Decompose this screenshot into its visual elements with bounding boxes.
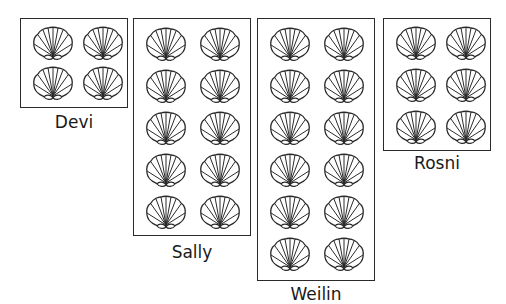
rosni-shell-box <box>383 18 491 151</box>
scallop-shell-icon <box>394 26 438 62</box>
sally-label: Sally <box>133 242 251 262</box>
scallop-shell-icon <box>322 237 366 273</box>
scallop-shell-icon <box>322 153 366 189</box>
scallop-shell-icon <box>444 26 488 62</box>
scallop-shell-icon <box>322 111 366 147</box>
sally-shell-box <box>133 18 251 236</box>
scallop-shell-icon <box>198 27 242 63</box>
scallop-shell-icon <box>81 26 125 62</box>
scallop-shell-icon <box>444 110 488 146</box>
scallop-shell-icon <box>198 195 242 231</box>
scallop-shell-icon <box>268 237 312 273</box>
weilin-label: Weilin <box>257 284 375 304</box>
scallop-shell-icon <box>31 66 75 102</box>
scallop-shell-icon <box>81 66 125 102</box>
scallop-shell-icon <box>144 111 188 147</box>
scallop-shell-icon <box>144 153 188 189</box>
weilin-shell-box <box>257 18 375 281</box>
scallop-shell-icon <box>322 27 366 63</box>
scallop-shell-icon <box>394 110 438 146</box>
scallop-shell-icon <box>268 153 312 189</box>
scallop-shell-icon <box>198 69 242 105</box>
scallop-shell-icon <box>444 68 488 104</box>
scallop-shell-icon <box>144 195 188 231</box>
scallop-shell-icon <box>268 111 312 147</box>
devi-label: Devi <box>20 112 128 132</box>
rosni-label: Rosni <box>383 153 491 173</box>
scallop-shell-icon <box>31 26 75 62</box>
scallop-shell-icon <box>322 69 366 105</box>
scallop-shell-icon <box>144 27 188 63</box>
scallop-shell-icon <box>198 111 242 147</box>
scallop-shell-icon <box>394 68 438 104</box>
scallop-shell-icon <box>268 195 312 231</box>
scallop-shell-icon <box>268 27 312 63</box>
scallop-shell-icon <box>322 195 366 231</box>
devi-shell-box <box>20 18 128 108</box>
scallop-shell-icon <box>198 153 242 189</box>
scallop-shell-icon <box>268 69 312 105</box>
scallop-shell-icon <box>144 69 188 105</box>
